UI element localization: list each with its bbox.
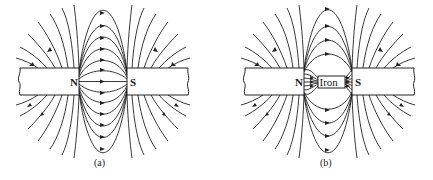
caption-a: (a) bbox=[94, 157, 105, 169]
caption-b: (b) bbox=[320, 157, 332, 169]
pole-label-n-a: N bbox=[70, 76, 78, 88]
magnetic-field-figure: N S (a) bbox=[0, 0, 433, 180]
magnet-s-b bbox=[352, 68, 415, 95]
iron-label: Iron bbox=[320, 76, 339, 88]
magnet-s-a bbox=[127, 68, 189, 95]
pole-label-n-b: N bbox=[295, 76, 303, 88]
pole-label-s-b: S bbox=[355, 76, 361, 88]
gap-arrows-a bbox=[100, 11, 105, 151]
pole-label-s-a: S bbox=[130, 76, 136, 88]
